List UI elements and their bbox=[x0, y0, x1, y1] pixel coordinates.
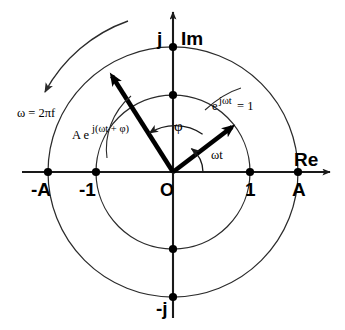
tick-dot-inner-bottom bbox=[169, 245, 177, 253]
imaginary-axis-label: Im bbox=[181, 28, 203, 49]
unit-phasor-base: e bbox=[212, 99, 218, 113]
tick-dot-neg-j bbox=[169, 293, 177, 301]
phasor-expression-exponent: j(ωt + φ) bbox=[91, 123, 129, 135]
tick-dot-inner-top bbox=[169, 91, 177, 99]
tick-label-neg-1: -1 bbox=[79, 179, 96, 200]
tick-label-1: 1 bbox=[245, 179, 256, 200]
tick-dot-1 bbox=[246, 168, 254, 176]
unit-phasor-value: = 1 bbox=[237, 99, 253, 113]
origin-label: O bbox=[160, 180, 174, 200]
angular-frequency-label: ω = 2πf bbox=[17, 106, 56, 120]
phase-angle-label: φ bbox=[174, 118, 183, 134]
tick-dot-neg-A bbox=[44, 168, 52, 176]
tick-label-A: A bbox=[292, 179, 306, 200]
tick-dot-pos-j bbox=[169, 43, 177, 51]
tick-label-pos-j: j bbox=[156, 28, 162, 49]
real-axis-label: Re bbox=[294, 149, 318, 170]
tick-dot-neg-1 bbox=[92, 168, 100, 176]
tick-label-neg-j: -j bbox=[156, 298, 168, 319]
phasor-diagram: Im j -j Re -A -1 1 A O ω = 2πf A e j(ωt … bbox=[0, 0, 345, 330]
phasor-expression-base: A e bbox=[72, 128, 89, 142]
rotation-angle-label: ωt bbox=[211, 148, 223, 162]
unit-phasor-exponent: jωt bbox=[218, 95, 232, 106]
tick-label-neg-A: -A bbox=[31, 179, 51, 200]
